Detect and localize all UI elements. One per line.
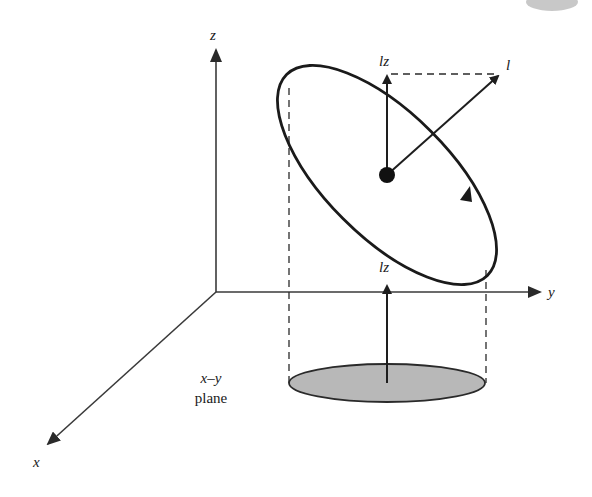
orbit-direction-arrow (460, 186, 472, 202)
angular-momentum-diagram: z y x lz lz l x–y plane (0, 0, 592, 497)
lz-bottom-label: lz (379, 259, 389, 275)
nucleus-dot (379, 167, 395, 183)
y-axis-label: y (546, 284, 555, 300)
x-axis-label: x (32, 454, 40, 470)
corner-blob (526, 0, 578, 11)
l-vector-label: l (506, 57, 510, 73)
xy-plane-label-line2: plane (195, 390, 228, 406)
l-vector (387, 76, 498, 175)
xy-plane-label-line1: x–y (200, 370, 222, 386)
x-axis (48, 292, 216, 444)
z-axis-label: z (209, 27, 216, 43)
lz-top-label: lz (379, 53, 389, 69)
